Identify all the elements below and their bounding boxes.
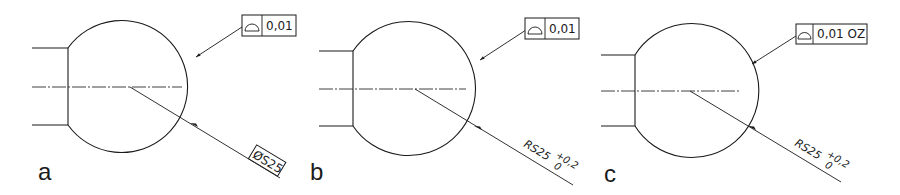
dimension-text: RS25 +0,2 0 bbox=[791, 131, 851, 179]
fcf-tolerance: 0,01 OZ bbox=[817, 27, 865, 41]
panel-b: 0,01 RS25 +0,2 0 b bbox=[310, 18, 580, 185]
panel-a: 0,01 ØS25 a bbox=[32, 15, 296, 185]
sphere-part bbox=[32, 21, 188, 153]
fcf-tolerance: 0,01 bbox=[549, 22, 576, 36]
sphere-outline bbox=[353, 21, 476, 155]
panel-label: c bbox=[604, 160, 616, 187]
fcf-leader bbox=[752, 36, 796, 64]
dimension-text: RS25 +0,2 0 bbox=[520, 132, 580, 180]
dimension-value: RS25 bbox=[792, 136, 823, 162]
feature-control-frame: 0,01 bbox=[525, 18, 579, 39]
sphere-outline bbox=[68, 21, 188, 153]
sphere-outline bbox=[635, 23, 759, 157]
sphere-part bbox=[601, 23, 759, 157]
lower-tolerance: 0 bbox=[552, 160, 563, 173]
radial-leader bbox=[690, 91, 841, 182]
dimension-value: RS25 bbox=[521, 137, 552, 163]
feature-control-frame: 0,01 OZ bbox=[796, 24, 867, 44]
leader-arrowhead bbox=[748, 126, 756, 130]
radial-leader bbox=[415, 89, 573, 185]
feature-control-frame: 0,01 bbox=[242, 15, 296, 36]
drawing-canvas: 0,01 ØS25 a 0,01 RS25 +0,2 bbox=[0, 0, 900, 195]
panel-label: b bbox=[310, 158, 323, 185]
leader-arrowhead bbox=[190, 123, 198, 127]
leader-arrowhead bbox=[474, 126, 482, 130]
panel-c: 0,01 OZ RS25 +0,2 0 c bbox=[601, 23, 867, 187]
lower-tolerance: 0 bbox=[823, 159, 834, 172]
fcf-leader bbox=[196, 27, 242, 57]
sphere-part bbox=[319, 21, 476, 155]
fcf-tolerance: 0,01 bbox=[266, 19, 293, 33]
fcf-leader bbox=[480, 30, 526, 60]
basic-dimension: ØS25 bbox=[248, 145, 286, 176]
panel-label: a bbox=[38, 158, 52, 185]
